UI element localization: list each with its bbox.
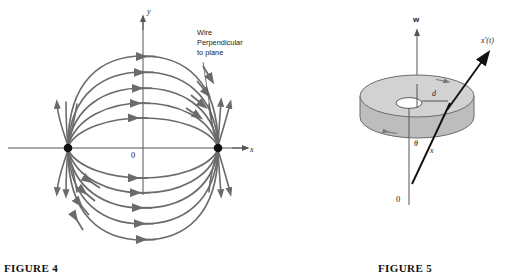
origin-label-5: 0	[396, 194, 400, 204]
wire-annotation-line-3: to plane	[197, 48, 223, 57]
disk-hole	[396, 98, 422, 109]
arrow-lower-left-5	[75, 217, 83, 230]
figure-4-caption: FIGURE 4	[4, 262, 58, 274]
x-axis-label: x	[249, 145, 254, 154]
ray-label-x: x	[429, 146, 434, 155]
figure-4: y x 0 Wire Perpendicular to plane FIGURE…	[0, 0, 260, 280]
origin-label: 0	[131, 150, 135, 160]
figure-pair-page: y x 0 Wire Perpendicular to plane FIGURE…	[0, 0, 520, 280]
y-axis-label: y	[146, 7, 151, 16]
figure-5-caption: FIGURE 5	[378, 262, 432, 274]
wire-annotation-line-2: Perpendicular	[197, 38, 243, 47]
velocity-label: x'(t)	[480, 36, 494, 45]
angle-label: θ	[414, 139, 418, 148]
right-pole-dot	[214, 144, 223, 153]
wire-annotation-line-1: Wire	[197, 28, 212, 37]
figure-5-diagram: w x'(t) d θ x 0	[260, 0, 520, 250]
left-pole-dot	[64, 144, 73, 153]
figure-5: w x'(t) d θ x 0 FIGURE 5	[260, 0, 520, 280]
w-axis-label: w	[412, 15, 420, 24]
figure-4-diagram: y x 0 Wire Perpendicular to plane	[0, 0, 260, 250]
